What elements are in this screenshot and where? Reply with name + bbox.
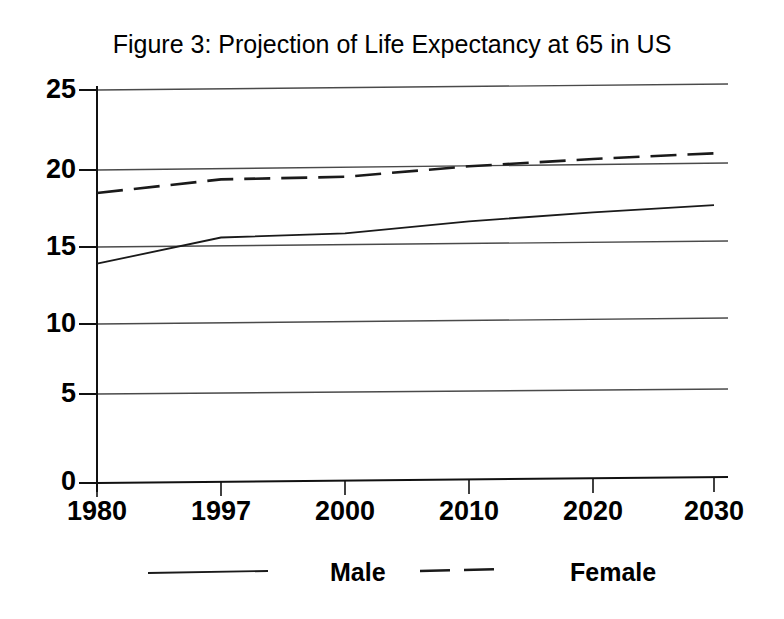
legend-item-female: Female bbox=[570, 558, 656, 587]
gridline-5 bbox=[97, 389, 728, 394]
series-line-female bbox=[97, 153, 714, 193]
legend-female-swatch bbox=[420, 569, 505, 571]
y-tick-marks bbox=[79, 90, 97, 483]
gridline-10 bbox=[97, 318, 728, 324]
legend-swatches bbox=[148, 569, 505, 573]
y-axis-label-5: 5 bbox=[16, 378, 76, 409]
y-axis-label-15: 15 bbox=[16, 231, 76, 262]
legend-male-swatch bbox=[148, 571, 268, 573]
figure-container: Figure 3: Projection of Life Expectancy … bbox=[0, 0, 784, 619]
x-axis-label-2000: 2000 bbox=[290, 496, 400, 527]
gridline-20 bbox=[97, 163, 728, 170]
y-axis-label-20: 20 bbox=[16, 154, 76, 185]
y-axis-label-25: 25 bbox=[16, 74, 76, 105]
x-axis-label-1997: 1997 bbox=[166, 496, 276, 527]
y-axis-label-0: 0 bbox=[16, 466, 76, 497]
legend-item-male: Male bbox=[330, 558, 386, 587]
x-axis-label-1980: 1980 bbox=[42, 496, 152, 527]
gridline-25 bbox=[97, 84, 728, 90]
x-axis-label-2030: 2030 bbox=[659, 496, 769, 527]
gridlines-group bbox=[97, 84, 728, 394]
x-axis-line bbox=[97, 477, 728, 483]
axis-lines-group bbox=[97, 86, 728, 492]
series-line-male bbox=[97, 205, 714, 264]
x-axis-label-2010: 2010 bbox=[414, 496, 524, 527]
x-axis-label-2020: 2020 bbox=[538, 496, 648, 527]
y-axis-label-10: 10 bbox=[16, 308, 76, 339]
